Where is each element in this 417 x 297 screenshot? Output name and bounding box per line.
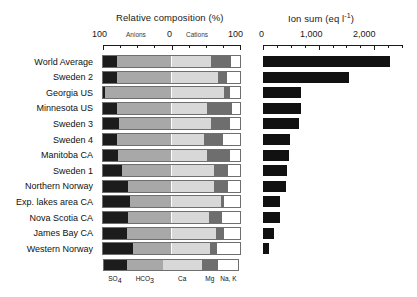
composition-segment-NaK (232, 103, 240, 114)
category-label: Sweden 3 (53, 119, 93, 130)
composition-bar-row (103, 103, 240, 114)
composition-segment-HCO3 (105, 87, 171, 98)
composition-segment-Mg (204, 134, 222, 145)
composition-segment-HCO3 (117, 56, 172, 67)
composition-bar-row (103, 212, 240, 223)
composition-segment-Mg (209, 212, 222, 223)
ion-sum-bar (263, 181, 286, 192)
composition-segment-SO4 (103, 243, 133, 254)
axis-tick (305, 45, 306, 48)
category-label: World Average (34, 57, 93, 68)
composition-segment-Ca (172, 228, 217, 239)
composition-segment-Ca (172, 196, 221, 207)
right-axis-tick-label-1: 1,000 (300, 29, 323, 39)
composition-segment-Ca (172, 181, 214, 192)
category-label: Northern Norway (25, 181, 93, 192)
composition-segment-Ca (172, 150, 208, 161)
composition-bar-row (103, 118, 240, 129)
composition-bar-row (103, 196, 240, 207)
axis-tick (120, 45, 121, 48)
axis-tick (263, 45, 264, 50)
axis-tick (291, 45, 292, 48)
composition-segment-Ca (172, 134, 205, 145)
composition-segment-HCO3 (128, 181, 172, 192)
composition-bar-row (103, 243, 240, 254)
composition-segment-SO4 (103, 87, 105, 98)
composition-segment-Ca (172, 56, 211, 67)
ion-sum-bar (263, 150, 289, 161)
left-axis-tick-label-2: 100 (228, 29, 243, 39)
composition-segment-SO4 (103, 165, 122, 176)
legend-label-text: HCO (136, 275, 150, 282)
right-panel-title-text: Ion sum (eq l (288, 13, 344, 24)
composition-bar-row (103, 56, 240, 67)
composition-segment-NaK (230, 118, 240, 129)
composition-segment-HCO3 (122, 165, 171, 176)
composition-segment-NaK (230, 150, 240, 161)
category-label: Sweden 1 (53, 166, 93, 177)
right-panel-title-close: ) (351, 13, 354, 24)
category-label: Minnesota US (36, 103, 93, 114)
composition-segment-NaK (222, 212, 240, 223)
ion-sum-bar (263, 134, 290, 145)
left-axis-tick-label-1: 0 (167, 29, 172, 39)
ion-sum-bar (263, 243, 269, 254)
composition-bar-row (103, 165, 240, 176)
category-label: Sweden 4 (53, 135, 93, 146)
axis-tick (333, 45, 334, 48)
composition-segment-HCO3 (117, 72, 171, 83)
composition-segment-Mg (218, 72, 227, 83)
left-panel-title: Relative composition (%) (116, 12, 223, 23)
composition-segment-HCO3 (117, 134, 172, 145)
composition-segment-NaK (227, 72, 240, 83)
composition-segment-Ca (172, 103, 208, 114)
legend-label-text: SO (108, 275, 117, 282)
composition-segment-SO4 (103, 72, 117, 83)
composition-segment-Ca (172, 243, 210, 254)
axis-tick (402, 45, 403, 48)
axis-tick (206, 45, 207, 48)
composition-segment-Ca (172, 165, 214, 176)
composition-segment-HCO3 (128, 212, 171, 223)
composition-segment-HCO3 (117, 103, 171, 114)
composition-segment-Mg (211, 118, 231, 129)
composition-segment-NaK (228, 165, 240, 176)
axis-tick (103, 45, 104, 50)
cations-group-label: Cations (186, 31, 208, 38)
legend-frame (103, 259, 239, 271)
composition-segment-SO4 (103, 196, 130, 207)
ion-sum-bar (263, 56, 390, 67)
composition-segment-HCO3 (130, 196, 172, 207)
composition-segment-Ca (172, 72, 219, 83)
composition-segment-Mg (207, 103, 232, 114)
composition-segment-SO4 (103, 56, 117, 67)
axis-tick (319, 45, 320, 50)
composition-segment-NaK (230, 87, 240, 98)
composition-segment-Mg (214, 165, 228, 176)
composition-segment-NaK (231, 56, 240, 67)
axis-tick (189, 45, 190, 48)
composition-segment-NaK (224, 228, 240, 239)
composition-segment-HCO3 (133, 243, 171, 254)
composition-segment-SO4 (103, 228, 127, 239)
ion-sum-bar (263, 87, 301, 98)
category-label: James Bay CA (33, 228, 93, 239)
legend-label-text: Ca (178, 275, 186, 282)
axis-tick (172, 45, 173, 50)
composition-bar-row (103, 181, 240, 192)
composition-segment-Mg (214, 181, 228, 192)
chart-figure: Relative composition (%) Ion sum (eq l-1… (0, 0, 417, 297)
axis-tick (240, 45, 241, 50)
axis-tick (223, 45, 224, 48)
axis-tick (137, 45, 138, 48)
composition-segment-NaK (223, 134, 240, 145)
composition-segment-NaK (217, 243, 240, 254)
ion-sum-bar (263, 212, 280, 223)
composition-segment-NaK (228, 181, 240, 192)
composition-bar-row (103, 150, 240, 161)
category-label: Western Norway (27, 244, 93, 255)
composition-segment-SO4 (103, 181, 128, 192)
legend-label-text: Na, K (220, 275, 236, 282)
composition-bar-row (103, 87, 240, 98)
composition-segment-Mg (210, 243, 217, 254)
